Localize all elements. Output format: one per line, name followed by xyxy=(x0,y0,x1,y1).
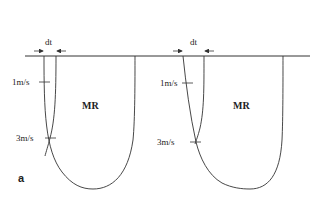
velocity-1-label-right: 1m/s xyxy=(160,78,178,88)
dt-label-left: dt xyxy=(45,37,52,47)
mr-doppler-diagram: dt 1m/s 3m/s MR dt 1m/s 3m/s MR a xyxy=(0,0,314,201)
diagram-graphics xyxy=(0,0,314,201)
velocity-3-label-left: 3m/s xyxy=(16,133,34,143)
velocity-3-label-right: 3m/s xyxy=(157,137,175,147)
right-envelope xyxy=(183,56,283,189)
left-envelope xyxy=(44,56,135,189)
velocity-1-label-left: 1m/s xyxy=(12,77,30,87)
mr-label-right: MR xyxy=(233,100,250,111)
mr-label-left: MR xyxy=(82,100,99,111)
panel-label: a xyxy=(18,172,24,184)
dt-label-right: dt xyxy=(190,37,197,47)
